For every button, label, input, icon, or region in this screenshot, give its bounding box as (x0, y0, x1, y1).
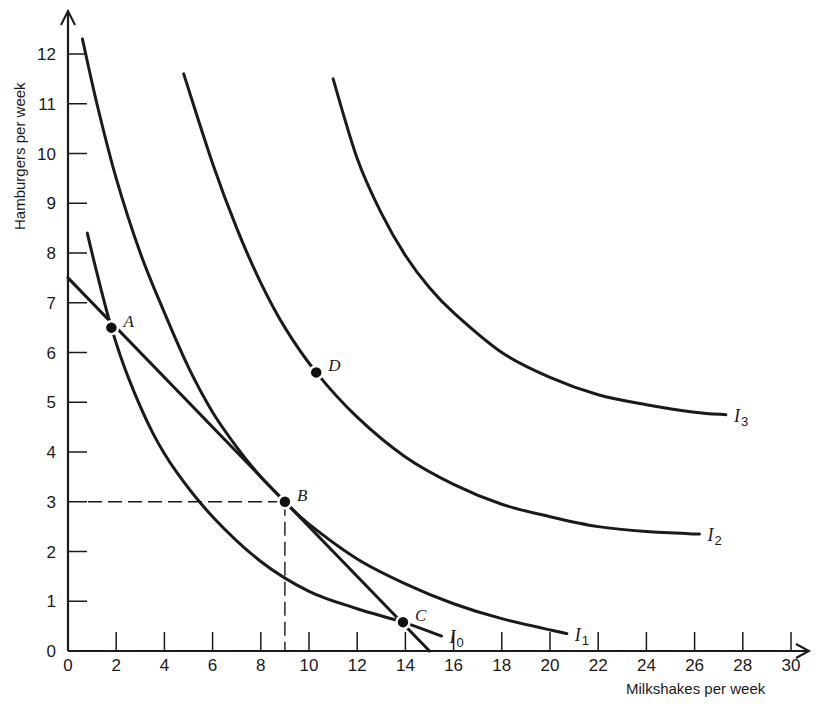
axes: 0246810121416182022242628300123456789101… (37, 11, 809, 675)
y-tick-label: 3 (47, 493, 56, 512)
y-tick-label: 11 (38, 95, 56, 114)
point-b (278, 495, 291, 508)
x-tick-label: 28 (733, 656, 752, 675)
x-tick-label: 10 (300, 656, 319, 675)
point-label-a: A (122, 312, 134, 331)
x-tick-label: 24 (637, 656, 656, 675)
labeled-points: ABCD (105, 312, 427, 629)
dashed-guides (88, 502, 285, 651)
x-tick-label: 26 (685, 656, 704, 675)
curve-label-i0: I0 (449, 627, 464, 650)
curve-label-i3: I3 (733, 406, 748, 429)
indifference-curve-i2 (184, 74, 700, 534)
x-tick-label: 0 (63, 656, 72, 675)
x-axis-title: Milkshakes per week (626, 680, 766, 697)
y-tick-label: 2 (47, 543, 56, 562)
x-tick-label: 4 (160, 656, 169, 675)
y-tick-label: 4 (47, 443, 56, 462)
y-tick-label: 10 (37, 145, 56, 164)
x-tick-label: 8 (256, 656, 265, 675)
point-d (310, 366, 323, 379)
y-tick-label: 6 (47, 344, 56, 363)
x-tick-label: 22 (589, 656, 608, 675)
point-label-d: D (327, 356, 341, 375)
x-tick-label: 6 (208, 656, 217, 675)
y-tick-label: 0 (47, 642, 56, 661)
x-tick-label: 20 (541, 656, 560, 675)
x-tick-label: 12 (348, 656, 367, 675)
point-c (396, 616, 409, 629)
curve-label-i2: I2 (706, 525, 721, 548)
y-tick-label: 5 (47, 393, 56, 412)
curves: I0I1I2I3 (68, 39, 748, 651)
y-tick-label: 1 (47, 592, 56, 611)
indifference-curve-i3 (333, 79, 726, 415)
x-tick-label: 2 (111, 656, 120, 675)
x-tick-label: 18 (492, 656, 511, 675)
y-axis-title: Hamburgers per week (11, 82, 28, 230)
y-tick-label: 8 (47, 244, 56, 263)
y-tick-label: 9 (47, 194, 56, 213)
y-tick-label: 12 (37, 45, 56, 64)
x-tick-label: 14 (396, 656, 415, 675)
x-tick-label: 16 (444, 656, 463, 675)
point-a (105, 321, 118, 334)
curve-label-i1: I1 (574, 625, 589, 648)
budget-line (68, 278, 430, 651)
x-tick-label: 30 (782, 656, 801, 675)
indifference-curve-chart: 0246810121416182022242628300123456789101… (0, 0, 835, 706)
point-label-b: B (297, 486, 308, 505)
point-label-c: C (415, 606, 427, 625)
y-tick-label: 7 (47, 294, 56, 313)
